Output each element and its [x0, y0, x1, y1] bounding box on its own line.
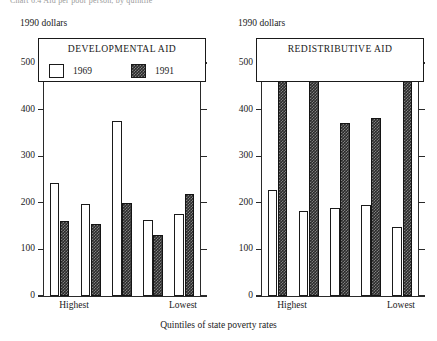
bar: [174, 214, 184, 296]
y-tick-label-100: 100: [239, 245, 253, 255]
y-tick-label-400: 400: [21, 105, 35, 115]
legend-swatch-open-icon: [49, 64, 64, 78]
y-tick-400: [256, 109, 262, 110]
bar-group: [106, 63, 137, 296]
bar: [112, 121, 122, 296]
legend-left: 1969 1991: [39, 63, 205, 81]
x-category-last-left: Lowest: [169, 300, 197, 310]
bar-group: [138, 63, 169, 296]
bar: [81, 204, 91, 296]
figure-top-caption: Chart 6.4 Aid per poor person, by quinti…: [10, 0, 152, 5]
figure-canvas: Chart 6.4 Aid per poor person, by quinti…: [0, 0, 437, 341]
y-tick-label-500: 500: [21, 58, 35, 68]
y-tick-right-300: [201, 156, 207, 157]
bar-group: [324, 63, 355, 296]
bar: [340, 123, 350, 296]
bar: [50, 183, 60, 296]
bar: [371, 118, 381, 296]
panel-title-right: REDISTRIBUTIVE AID: [257, 43, 423, 54]
plot-area-right: 0100200300400500: [262, 63, 418, 296]
panel-redistributive-aid: 1990 dollars 0100200300400500 REDISTRIBU…: [222, 18, 437, 318]
y-tick-400: [38, 109, 44, 110]
y-tick-right-0: [419, 295, 425, 296]
bar: [403, 74, 413, 296]
bar: [122, 203, 132, 296]
y-tick-100: [38, 249, 44, 250]
y-tick-200: [256, 202, 262, 203]
y-tick-label-200: 200: [239, 198, 253, 208]
x-category-last-right: Lowest: [387, 300, 415, 310]
bar-group: [44, 63, 75, 296]
bar: [361, 205, 371, 296]
bar: [309, 77, 319, 296]
y-tick-0: [256, 295, 262, 296]
panel-title-left: DEVELOPMENTAL AID: [39, 43, 205, 54]
x-category-first-right: Highest: [277, 300, 307, 310]
y-tick-label-100: 100: [21, 245, 35, 255]
bar: [143, 220, 153, 296]
panel-developmental-aid: 1990 dollars 0100200300400500 DEVELOPMEN…: [4, 18, 219, 318]
y-tick-label-300: 300: [239, 151, 253, 161]
legend-item-1991: 1991: [131, 63, 174, 78]
y-tick-300: [256, 156, 262, 157]
bar-group: [387, 63, 418, 296]
bar-group: [356, 63, 387, 296]
y-tick-label-400: 400: [239, 105, 253, 115]
bar: [330, 208, 340, 296]
bar-group: [75, 63, 106, 296]
x-category-first-left: Highest: [59, 300, 89, 310]
title-legend-box-right: REDISTRIBUTIVE AID: [256, 38, 424, 82]
title-legend-box-left: DEVELOPMENTAL AID 1969 1991: [38, 38, 206, 82]
y-tick-100: [256, 249, 262, 250]
bar-group: [293, 63, 324, 296]
y-axis-units-label-right: 1990 dollars: [238, 18, 285, 28]
bar-series-right: [262, 63, 418, 296]
bar: [60, 221, 70, 296]
plot-area-left: 0100200300400500: [44, 63, 200, 296]
y-tick-right-300: [419, 156, 425, 157]
y-tick-right-400: [419, 109, 425, 110]
y-tick-label-0: 0: [30, 291, 35, 301]
x-axis-title: Quintiles of state poverty rates: [0, 320, 437, 330]
y-tick-300: [38, 156, 44, 157]
y-tick-200: [38, 202, 44, 203]
bar: [278, 75, 288, 296]
y-tick-right-200: [419, 202, 425, 203]
y-tick-0: [38, 295, 44, 296]
y-tick-label-0: 0: [248, 291, 253, 301]
legend-label-1969: 1969: [73, 66, 92, 76]
bar: [91, 224, 101, 296]
bar: [299, 211, 309, 296]
bar-group: [169, 63, 200, 296]
bar: [153, 235, 163, 296]
legend-label-1991: 1991: [155, 66, 174, 76]
y-axis-units-label-left: 1990 dollars: [20, 18, 67, 28]
bar: [268, 190, 278, 296]
y-tick-label-300: 300: [21, 151, 35, 161]
y-tick-label-500: 500: [239, 58, 253, 68]
y-tick-right-0: [201, 295, 207, 296]
y-tick-right-400: [201, 109, 207, 110]
y-tick-right-100: [201, 249, 207, 250]
bar-series-left: [44, 63, 200, 296]
y-tick-label-200: 200: [21, 198, 35, 208]
legend-swatch-hatched-icon: [131, 64, 146, 78]
y-tick-right-100: [419, 249, 425, 250]
y-tick-right-200: [201, 202, 207, 203]
bar-group: [262, 63, 293, 296]
legend-item-1969: 1969: [49, 63, 92, 78]
bar: [185, 194, 195, 296]
bar: [392, 227, 402, 296]
